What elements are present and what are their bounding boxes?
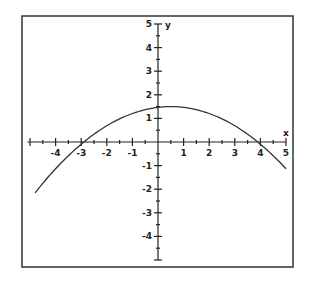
svg-text:-1: -1 — [127, 148, 137, 158]
curve-line — [35, 107, 286, 193]
svg-text:-4: -4 — [142, 231, 152, 241]
axes — [27, 24, 286, 260]
svg-text:-4: -4 — [51, 148, 61, 158]
svg-text:5: 5 — [146, 19, 152, 29]
svg-text:-2: -2 — [142, 184, 152, 194]
svg-text:2: 2 — [206, 148, 212, 158]
tick-labels: -4-3-2-11234554321-1-2-3-4xy — [51, 19, 290, 241]
svg-text:-2: -2 — [102, 148, 112, 158]
svg-text:2: 2 — [146, 90, 152, 100]
svg-text:x: x — [283, 128, 289, 138]
svg-text:1: 1 — [146, 113, 152, 123]
svg-text:4: 4 — [146, 43, 152, 53]
parabola-chart: -4-3-2-11234554321-1-2-3-4xy — [0, 0, 312, 295]
svg-text:-3: -3 — [142, 208, 152, 218]
svg-text:1: 1 — [180, 148, 186, 158]
svg-text:5: 5 — [283, 148, 289, 158]
svg-text:-3: -3 — [76, 148, 86, 158]
svg-text:3: 3 — [146, 66, 152, 76]
svg-text:-1: -1 — [142, 161, 152, 171]
svg-text:4: 4 — [257, 148, 263, 158]
svg-text:3: 3 — [232, 148, 238, 158]
svg-text:y: y — [165, 20, 171, 30]
